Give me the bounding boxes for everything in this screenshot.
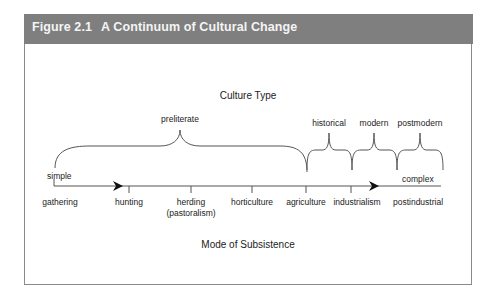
label-preliterate: preliterate [161, 114, 199, 125]
label-modern: modern [360, 118, 389, 129]
label-industrialism: industrialism [333, 197, 380, 208]
brace-postmodern [397, 133, 443, 170]
label-simple: simple [47, 171, 72, 182]
label-historical: historical [312, 118, 346, 129]
label-herding-sub: (pastoralism) [166, 208, 215, 219]
culture-type-heading: Culture Type [220, 90, 277, 101]
brace-modern [352, 133, 397, 170]
label-hunting: hunting [115, 197, 143, 208]
label-gathering: gathering [42, 197, 77, 208]
label-horticulture: horticulture [231, 197, 273, 208]
brace-historical [307, 133, 352, 170]
brace-preliterate [55, 130, 307, 172]
label-postmodern: postmodern [398, 118, 443, 129]
label-herding-main: herding [166, 197, 215, 208]
label-complex: complex [402, 174, 434, 185]
label-herding: herding (pastoralism) [166, 197, 215, 219]
label-postindustrial: postindustrial [393, 197, 443, 208]
mode-of-subsistence-heading: Mode of Subsistence [201, 239, 294, 250]
label-agriculture: agriculture [286, 197, 326, 208]
